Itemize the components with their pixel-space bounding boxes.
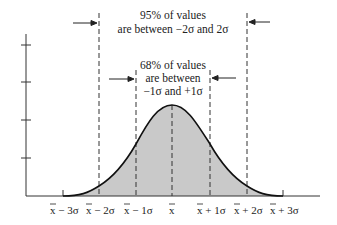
label-mean-minus-1-sigma: x − 1σ (124, 204, 153, 216)
svg-text:x − 2σ: x − 2σ (86, 204, 115, 216)
svg-text:x − 1σ: x − 1σ (124, 204, 153, 216)
label-mean: x (169, 204, 175, 216)
label-mean-plus-3-sigma: x + 3σ (270, 204, 299, 216)
annotation-95-percent: 95% of values are between −2σ and 2σ (118, 9, 230, 35)
svg-text:are between −2σ and 2σ: are between −2σ and 2σ (118, 23, 230, 35)
svg-text:−1σ and +1σ: −1σ and +1σ (143, 85, 203, 97)
normal-distribution-diagram: 95% of values are between −2σ and 2σ 68%… (0, 0, 337, 225)
label-mean-plus-2-sigma: x + 2σ (234, 204, 263, 216)
annotation-68-percent: 68% of values are between −1σ and +1σ (140, 59, 206, 97)
arrow-right-icon (109, 77, 134, 82)
label-mean-minus-3-sigma: x − 3σ (50, 204, 79, 216)
label-mean-minus-2-sigma: x − 2σ (86, 204, 115, 216)
svg-text:95% of values: 95% of values (140, 9, 206, 21)
svg-text:x − 3σ: x − 3σ (50, 204, 79, 216)
curve-fill-area (63, 105, 283, 196)
svg-text:are between: are between (145, 72, 200, 84)
arrow-right-icon (73, 21, 97, 26)
svg-text:x + 1σ: x + 1σ (197, 204, 226, 216)
x-axis-labels: x − 3σ x − 2σ x − 1σ x x + 1σ x + 2σ x +… (50, 204, 299, 216)
svg-text:68% of values: 68% of values (140, 59, 206, 71)
arrow-left-icon (212, 76, 236, 81)
label-mean-plus-1-sigma: x + 1σ (197, 204, 226, 216)
svg-text:x: x (169, 204, 175, 216)
arrow-left-icon (249, 20, 270, 25)
svg-text:x + 3σ: x + 3σ (270, 204, 299, 216)
svg-text:x + 2σ: x + 2σ (234, 204, 263, 216)
